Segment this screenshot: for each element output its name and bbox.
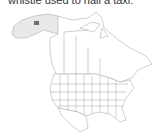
alaska-shape xyxy=(12,14,60,38)
caption-text: whistle used to hail a taxi. xyxy=(8,0,133,6)
range-map xyxy=(0,8,165,137)
range-dark-spot xyxy=(34,21,39,25)
canada-shape xyxy=(50,12,152,82)
